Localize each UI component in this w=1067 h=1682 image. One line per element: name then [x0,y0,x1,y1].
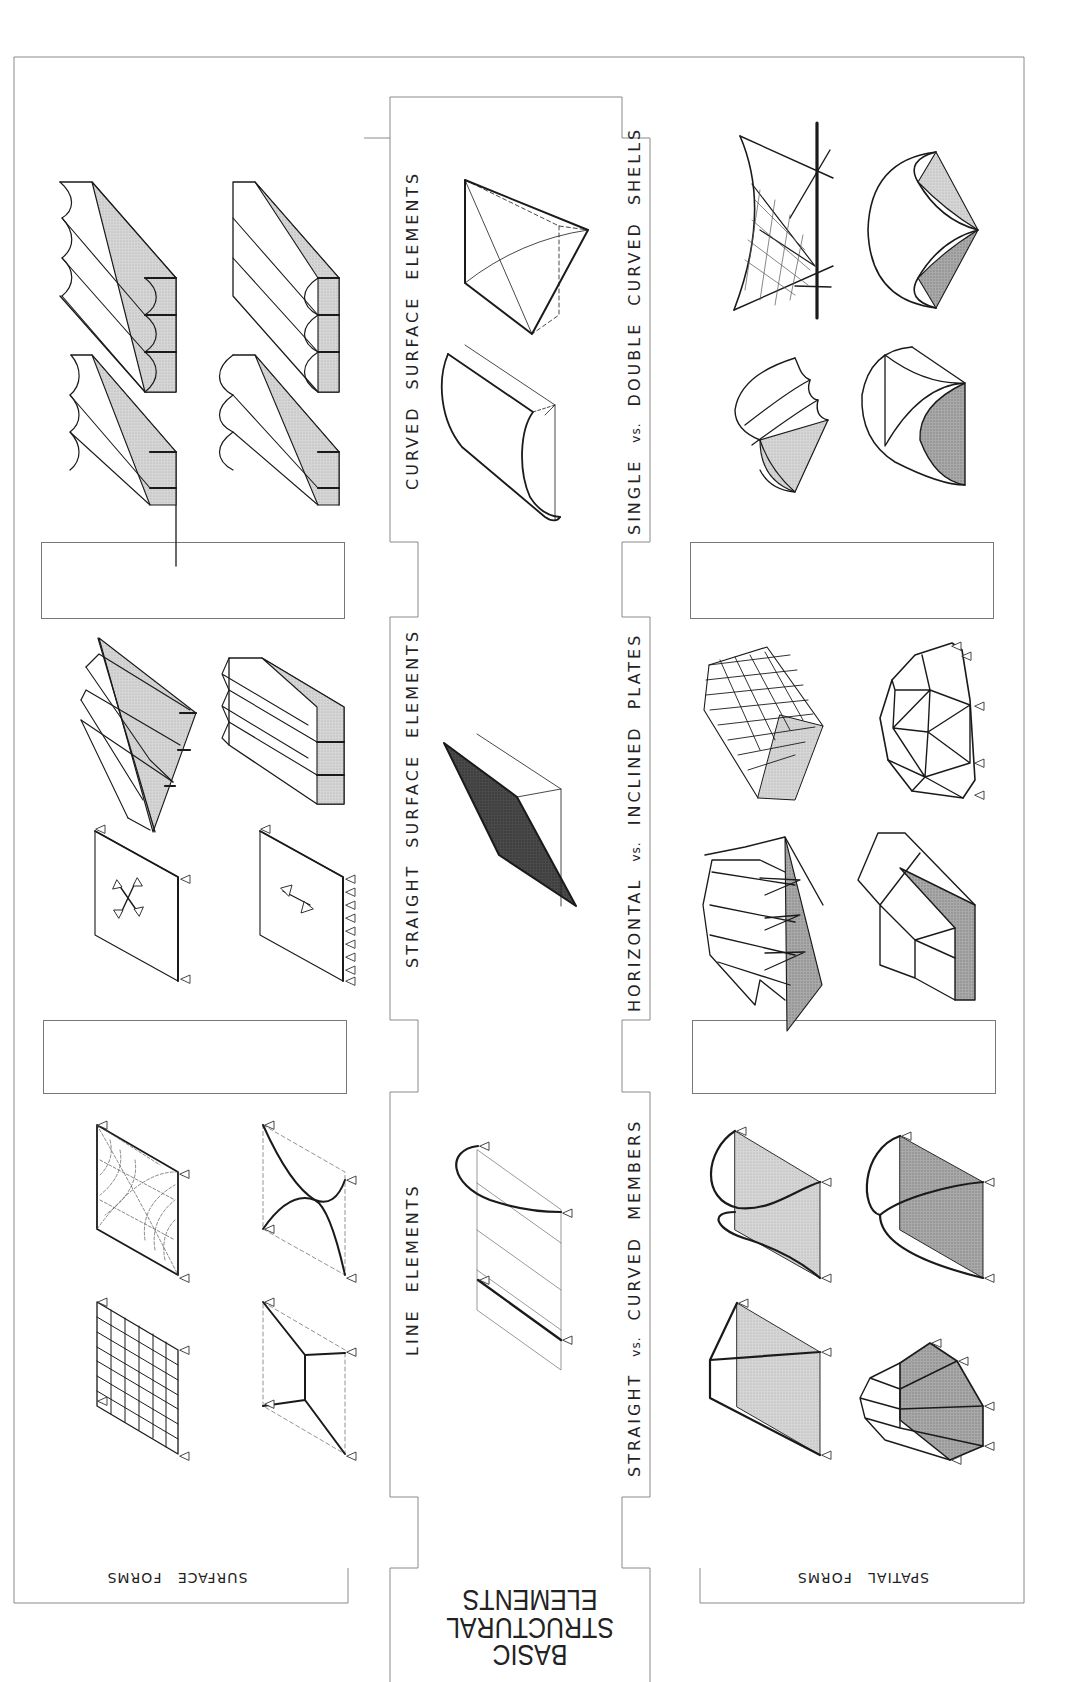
plate-page: CURVED SURFACE ELEMENTS STRAIGHT SURFACE… [0,0,1067,1682]
hypar-element [465,180,588,334]
arch-curved-b [867,1132,994,1282]
flat-plate-element [444,734,576,906]
dome-quadrant-shell [868,152,978,308]
hypar-generators [734,123,833,318]
grid-slab [97,1298,189,1460]
line-elements-diagram [456,1142,572,1370]
geodesic-dome [880,642,984,799]
plate-two-way [95,825,190,983]
folded-plate-pyramidal [703,837,823,1031]
barrel-vault-scalloped [60,182,176,392]
intersecting-vault-shell [862,347,965,485]
multi-vault-shell [735,358,828,492]
arch-curved-a [711,1127,831,1282]
cable-net-straight [263,1298,356,1460]
stress-trajectory-slab [97,1121,189,1282]
truss-straight-members [710,1299,831,1459]
plate-one-way [260,825,355,985]
folded-plate-inclined [81,638,196,832]
faceted-vault [858,833,975,1000]
barrel-vault-round [233,182,339,392]
folded-plate-accordion [704,647,823,800]
polygonal-frame-straight-members [860,1339,994,1464]
cable-net-curved [263,1121,356,1282]
folded-plate-horizontal [222,658,344,804]
drawings-layer [0,0,1067,1682]
cylindrical-shell-element [442,345,560,523]
